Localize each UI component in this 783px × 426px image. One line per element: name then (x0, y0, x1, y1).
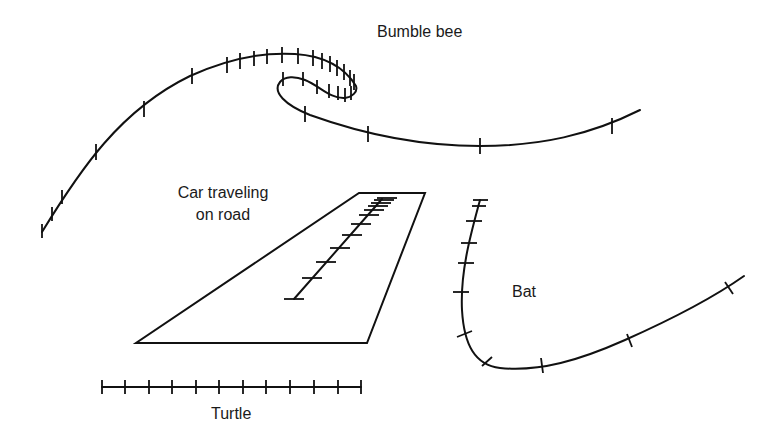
bat-label: Bat (512, 282, 536, 302)
bat-path (453, 200, 744, 373)
motion-paths-diagram: Bumble bee Car traveling on road Bat Tur… (0, 0, 783, 426)
diagram-canvas (0, 0, 783, 426)
bumble-bee-path (42, 47, 640, 238)
bumble-bee-label: Bumble bee (377, 22, 462, 42)
car-label-line2: on road (168, 205, 278, 225)
car-label-line1: Car traveling (168, 183, 278, 203)
turtle-label: Turtle (211, 404, 251, 424)
turtle-path (102, 380, 361, 394)
